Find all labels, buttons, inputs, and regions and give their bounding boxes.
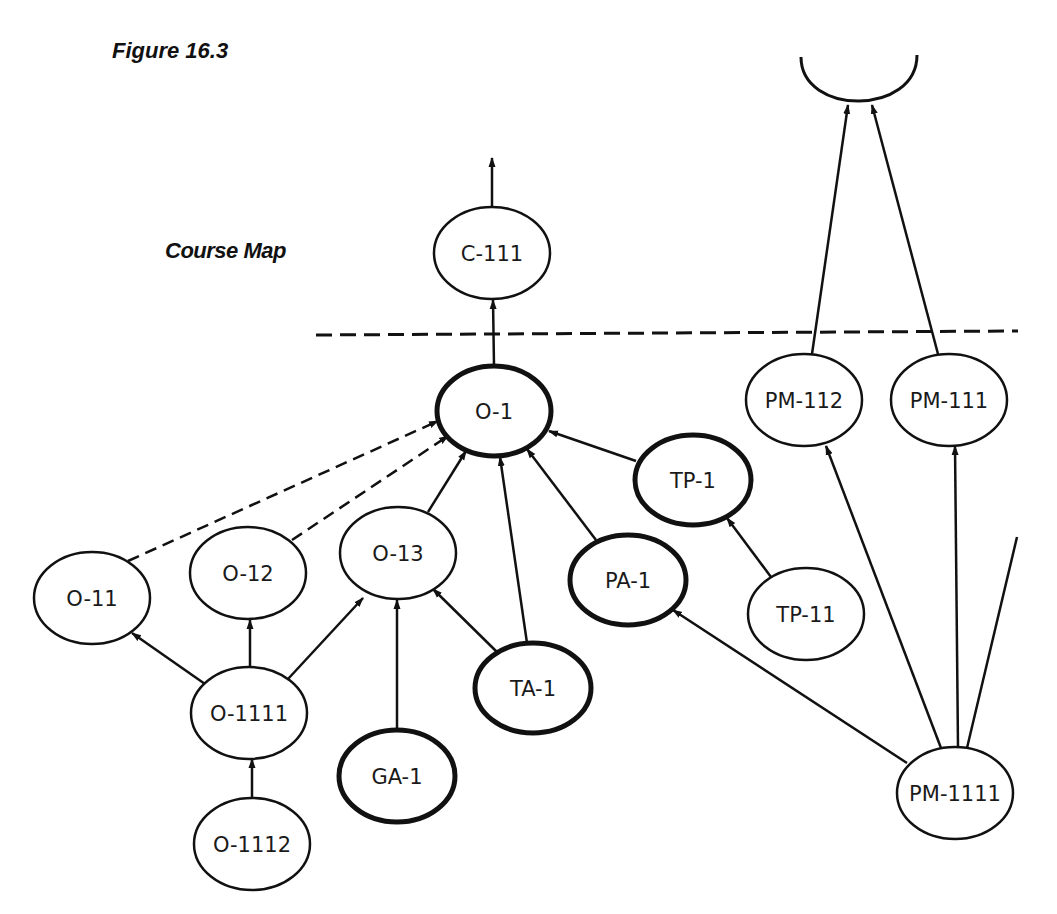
edge-pm-1111-to-pm-111 xyxy=(955,446,958,747)
node-o-1: O-1 xyxy=(437,366,551,456)
node-o-13: O-13 xyxy=(340,507,456,599)
node-label: TP-1 xyxy=(669,469,716,493)
node-label: PA-1 xyxy=(605,569,651,593)
node-label: TA-1 xyxy=(509,677,556,701)
edge-pm-112-to-goal-cup xyxy=(812,105,848,354)
edge-o-1-to-c-111 xyxy=(493,300,494,366)
node-o-12: O-12 xyxy=(190,527,306,619)
boundary-dashed-line xyxy=(316,331,1018,335)
goal-cup-icon xyxy=(801,55,917,101)
node-pm-112: PM-112 xyxy=(746,354,862,446)
edge-pm-1111-to-off-map xyxy=(967,537,1017,748)
node-label: TP-11 xyxy=(775,603,835,627)
node-ga-1: GA-1 xyxy=(339,730,455,822)
course-map-diagram: C-111O-1O-11O-12O-13O-1111O-1112GA-1TA-1… xyxy=(0,0,1057,914)
node-label: O-13 xyxy=(372,542,423,566)
edge-tp-11-to-tp-1 xyxy=(727,518,771,577)
edge-ta-1-to-o-1 xyxy=(500,457,527,643)
node-label: PM-111 xyxy=(910,389,988,413)
node-pm-1111: PM-1111 xyxy=(897,747,1013,839)
node-label: PM-112 xyxy=(765,389,843,413)
boundary-line xyxy=(316,331,1018,335)
node-o-11: O-11 xyxy=(34,552,150,644)
edge-ta-1-to-o-13 xyxy=(433,589,497,652)
node-label: O-1112 xyxy=(213,833,291,857)
edge-o-1111-to-o-11 xyxy=(132,633,205,684)
node-pa-1: PA-1 xyxy=(570,535,686,625)
edge-pm-111-to-goal-cup xyxy=(872,105,938,354)
node-label: GA-1 xyxy=(371,765,422,789)
node-pm-111: PM-111 xyxy=(891,354,1007,446)
node-c-111: C-111 xyxy=(434,207,550,299)
node-label: C-111 xyxy=(461,242,523,266)
node-label: O-1 xyxy=(475,400,513,424)
edge-pa-1-to-o-1 xyxy=(527,449,596,540)
node-label: PM-1111 xyxy=(909,782,1001,806)
edge-o-1111-to-o-13 xyxy=(288,598,363,679)
node-o-1111: O-1111 xyxy=(191,667,307,759)
edge-tp-1-to-o-1 xyxy=(549,431,636,461)
node-label: O-12 xyxy=(222,562,273,586)
node-tp-1: TP-1 xyxy=(635,435,751,525)
edge-o-13-to-o-1 xyxy=(428,451,466,512)
node-label: O-1111 xyxy=(210,702,288,726)
node-ta-1: TA-1 xyxy=(475,643,591,733)
node-tp-11: TP-11 xyxy=(748,568,864,660)
node-label: O-11 xyxy=(66,587,117,611)
goal-cup-arc xyxy=(801,55,917,101)
node-o-1112: O-1112 xyxy=(194,798,310,890)
